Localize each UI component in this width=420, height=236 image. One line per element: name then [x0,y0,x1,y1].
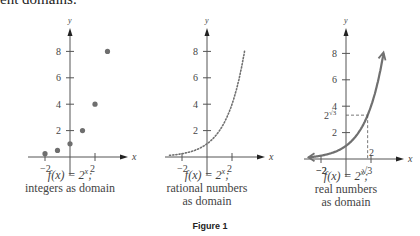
y-tick-label: 2 [332,127,337,138]
y-axis-arrow-icon [68,28,73,36]
x-axis-label: x [268,151,274,162]
y-tick-label: 4 [56,99,61,110]
x-axis-arrow-icon [396,157,404,162]
data-point [42,151,47,156]
x-axis-label: x [407,153,413,164]
y-annotation-label: 2√3 [324,109,337,121]
y-tick-label: 4 [193,99,198,110]
y-axis-label: y [343,16,348,25]
y-axis-label: y [204,16,209,25]
y-axis-label: y [67,16,72,25]
data-point [105,49,110,54]
caption-formula: f(x) = 2x; [10,165,130,182]
caption-formula: f(x) = 2x; [147,165,267,182]
y-tick-label: 2 [193,125,198,136]
caption-reals: f(x) = 2x; real numbers as domain [286,166,406,209]
caption-desc2: as domain [147,195,267,208]
data-point [55,148,60,153]
y-tick-label: 6 [193,72,198,83]
data-point [80,128,85,133]
caption-desc: integers as domain [10,182,130,195]
y-tick-label: 2 [56,125,61,136]
y-tick-label: 8 [332,48,337,59]
y-axis-arrow-icon [344,28,349,36]
caption-rationals: f(x) = 2x; rational numbers as domain [147,165,267,208]
caption-integers: f(x) = 2x; integers as domain [10,165,130,195]
x-tick-label: 2 [369,147,374,158]
x-axis-arrow-icon [257,155,265,160]
x-axis-arrow-icon [120,155,128,160]
y-tick-label: 6 [56,72,61,83]
data-point [67,141,72,146]
y-tick-label: 8 [193,46,198,57]
y-tick-label: 8 [56,46,61,57]
y-axis-arrow-icon [205,28,210,36]
caption-formula: f(x) = 2x; [286,166,406,183]
x-axis-label: x [131,151,137,162]
figure-label: Figure 1 [0,221,420,231]
data-point [92,102,97,107]
y-tick-label: 6 [332,74,337,85]
caption-desc2: as domain [286,196,406,209]
